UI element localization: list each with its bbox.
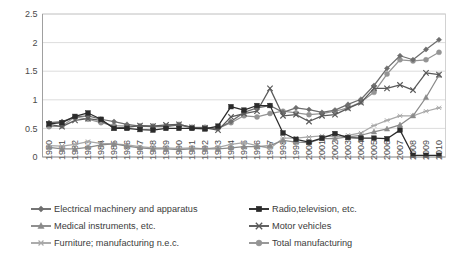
legend-item-label: Electrical machinery and apparatus (54, 204, 198, 214)
y-axis-tick-label: 0 (32, 152, 37, 162)
data-point-cross-marker (267, 86, 272, 91)
y-axis-tick-label: 2 (32, 38, 37, 48)
data-point-cross-marker (306, 119, 311, 124)
data-point-triangle-marker (397, 122, 402, 127)
data-point-square-marker (112, 126, 117, 131)
data-point-square-marker (177, 126, 182, 131)
data-point-square-marker (203, 127, 208, 132)
gridlines (43, 14, 446, 157)
data-point-square-marker (125, 126, 130, 131)
data-point-square-marker (294, 137, 299, 142)
data-point-square-marker (320, 136, 325, 141)
legend-item-label: Furniture; manufacturing n.e.c. (54, 238, 179, 248)
data-point-square-marker (138, 127, 143, 132)
data-point-diamond-marker (293, 105, 298, 110)
data-point-square-marker (73, 114, 78, 119)
data-point-square-marker (229, 104, 234, 109)
chart-canvas: 00.511.522.5 198019811982198319841985198… (0, 0, 451, 265)
data-point-square-marker (333, 131, 338, 136)
data-point-asterisk-marker (423, 109, 429, 113)
data-point-circle-marker (424, 57, 429, 62)
legend-item-label: Radio,television, etc. (272, 204, 357, 214)
legend-item[interactable]: Electrical machinery and apparatus (31, 204, 198, 214)
chart-legend: Electrical machinery and apparatusRadio,… (31, 204, 357, 248)
data-point-asterisk-marker (397, 114, 403, 118)
data-point-asterisk-marker (436, 106, 442, 110)
data-point-asterisk-marker (384, 118, 390, 122)
data-point-square-marker (60, 120, 65, 125)
data-point-square-marker (385, 136, 390, 141)
data-point-square-marker (164, 126, 169, 131)
data-point-square-marker (86, 111, 91, 116)
y-axis-tick-label: 2.5 (25, 9, 38, 19)
data-point-asterisk-marker (306, 135, 312, 139)
data-point-square-marker (216, 124, 221, 129)
data-point-circle-marker (307, 112, 312, 117)
y-axis-tick-label: 1.5 (25, 66, 38, 76)
data-point-square-marker (242, 108, 247, 113)
legend-item[interactable]: Medical instruments, etc. (31, 221, 156, 231)
legend-item[interactable]: Furniture; manufacturing n.e.c. (31, 238, 179, 248)
data-point-square-marker (151, 128, 156, 133)
data-point-square-marker (190, 126, 195, 131)
data-point-square-marker (268, 103, 273, 108)
data-point-square-marker (307, 140, 312, 145)
data-point-square-marker (255, 103, 260, 108)
legend-item-label: Motor vehicles (272, 221, 332, 231)
data-point-cross-marker (410, 87, 415, 92)
data-point-circle-marker (385, 72, 390, 77)
y-axis-tick-label: 0.5 (25, 124, 38, 134)
data-point-circle-marker (437, 50, 442, 55)
series-total-manufacturing (47, 50, 442, 131)
series-line (49, 73, 439, 130)
data-point-diamond-marker (38, 206, 44, 212)
data-point-diamond-marker (111, 119, 116, 124)
data-point-square-marker (372, 136, 377, 141)
legend-item[interactable]: Radio,television, etc. (249, 204, 357, 214)
data-point-asterisk-marker (38, 241, 45, 246)
plot-area-border (43, 14, 446, 157)
legend-item[interactable]: Motor vehicles (249, 221, 332, 231)
legend-item-label: Total manufacturing (272, 238, 352, 248)
data-point-circle-marker (268, 111, 273, 116)
data-point-circle-marker (256, 240, 262, 246)
data-point-square-marker (47, 122, 52, 127)
data-point-square-marker (346, 135, 351, 140)
y-axis-tick-label: 1 (32, 95, 37, 105)
legend-item-label: Medical instruments, etc. (54, 221, 156, 231)
data-point-square-marker (398, 128, 403, 133)
data-point-square-marker (99, 117, 104, 122)
y-axis-tick-labels: 00.511.522.5 (25, 9, 38, 162)
data-point-asterisk-marker (371, 123, 377, 127)
data-point-circle-marker (255, 114, 260, 119)
data-point-square-marker (359, 136, 364, 141)
data-series-group (46, 37, 442, 157)
data-point-square-marker (281, 131, 286, 136)
axis-lines (43, 14, 446, 157)
legend-item[interactable]: Total manufacturing (249, 238, 352, 248)
data-point-square-marker (256, 206, 261, 211)
line-chart: 00.511.522.5 198019811982198319841985198… (0, 0, 451, 265)
data-point-diamond-marker (306, 107, 311, 112)
